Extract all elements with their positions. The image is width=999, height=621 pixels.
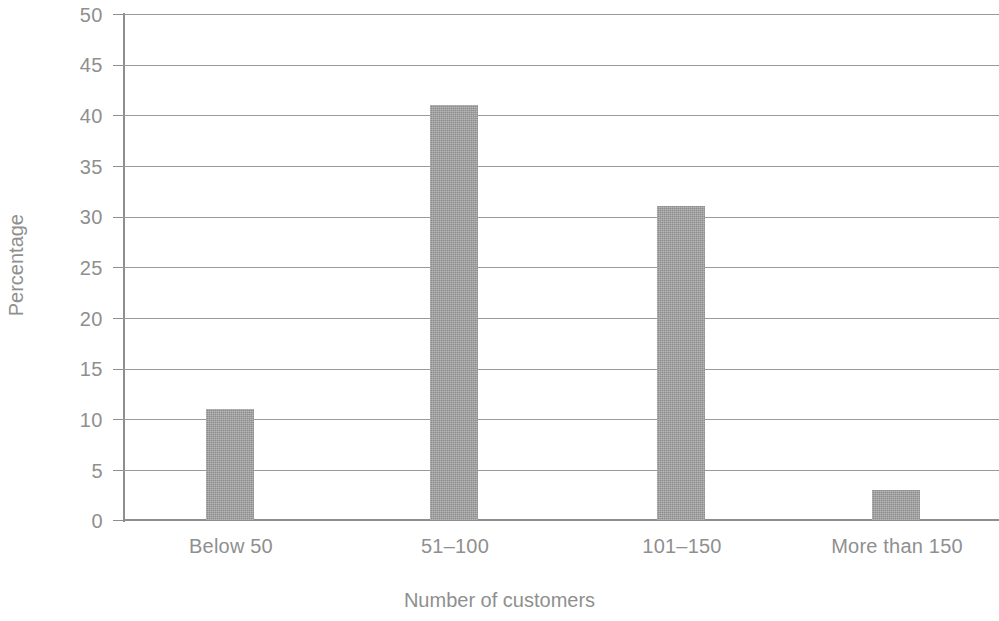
y-tick-label-50: 50 bbox=[57, 5, 103, 25]
y-tick-label-5: 5 bbox=[57, 461, 103, 481]
x-axis-line bbox=[123, 519, 999, 521]
plot-area bbox=[123, 14, 999, 520]
x-tick-label-101-150: 101–150 bbox=[642, 536, 721, 556]
y-tick-label-0: 0 bbox=[57, 511, 103, 531]
y-tick-label-20: 20 bbox=[57, 309, 103, 329]
gridline-50 bbox=[123, 14, 999, 15]
y-tick-label-25: 25 bbox=[57, 258, 103, 278]
gridline-35 bbox=[123, 166, 999, 167]
gridline-45 bbox=[123, 65, 999, 66]
y-tick-label-35: 35 bbox=[57, 157, 103, 177]
x-tick-label-51-100: 51–100 bbox=[421, 536, 489, 556]
x-tick-label-below-50: Below 50 bbox=[189, 536, 273, 556]
y-tick-label-45: 45 bbox=[57, 55, 103, 75]
x-axis-title: Number of customers bbox=[0, 590, 999, 610]
bar-51-100 bbox=[430, 105, 478, 520]
x-tick-label-more-than-150: More than 150 bbox=[831, 536, 963, 556]
gridline-10 bbox=[123, 419, 999, 420]
bar-more-than-150 bbox=[872, 490, 920, 520]
y-tick-label-30: 30 bbox=[57, 207, 103, 227]
y-tick-label-40: 40 bbox=[57, 106, 103, 126]
gridline-40 bbox=[123, 115, 999, 116]
bar-chart: 50 45 40 35 30 25 20 15 10 5 0 bbox=[0, 0, 999, 621]
bar-101-150 bbox=[657, 206, 705, 520]
gridline-30 bbox=[123, 217, 999, 218]
y-axis-title: Percentage bbox=[6, 214, 26, 316]
gridline-15 bbox=[123, 369, 999, 370]
gridline-5 bbox=[123, 470, 999, 471]
gridline-25 bbox=[123, 267, 999, 268]
y-tick-label-10: 10 bbox=[57, 410, 103, 430]
bar-below-50 bbox=[206, 409, 254, 520]
gridline-20 bbox=[123, 318, 999, 319]
y-tick-label-15: 15 bbox=[57, 359, 103, 379]
